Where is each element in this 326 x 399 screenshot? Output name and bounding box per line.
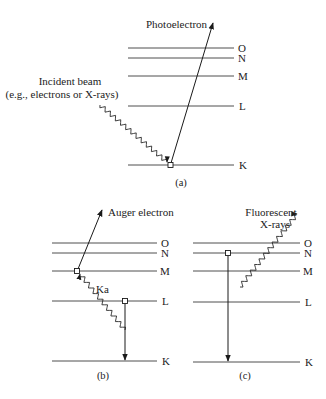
electron-vacancy-k — [168, 163, 173, 168]
fluorescent-label: Fluorescent — [245, 206, 296, 218]
auger-electron-arrow — [78, 210, 102, 269]
level-label-l: L — [239, 100, 246, 112]
level-label-m: M — [303, 265, 313, 277]
incident-beam-wave — [100, 105, 167, 162]
level-label-k: K — [162, 355, 170, 367]
atomic-energy-level-diagram: O N M L K Photoelectron Incident beam (e… — [0, 0, 326, 399]
level-label-m: M — [238, 70, 248, 82]
panel-a: O N M L K Photoelectron Incident beam (e… — [5, 18, 248, 189]
panel-b: O N M L K Auger electron Ka (b) — [52, 206, 174, 382]
xrays-label: X-rays — [260, 218, 290, 230]
incident-beam-sublabel: (e.g., electrons or X-rays) — [5, 88, 118, 101]
electron-m — [75, 269, 80, 274]
level-label-m: M — [160, 265, 170, 277]
electron-l — [123, 299, 128, 304]
level-label-n: N — [161, 247, 169, 259]
level-label-k: K — [305, 356, 313, 368]
level-label-l: L — [162, 295, 169, 307]
panel-c: O N M L K Fluorescent X-rays (c) — [193, 206, 313, 382]
incident-beam-label: Incident beam — [39, 75, 102, 87]
level-label-n: N — [238, 52, 246, 64]
panel-a-caption: (a) — [175, 177, 187, 189]
level-label-n: N — [304, 247, 312, 259]
ka-label: Ka — [96, 283, 109, 295]
photoelectron-label: Photoelectron — [146, 18, 208, 30]
panel-c-caption: (c) — [239, 370, 251, 382]
level-label-l: L — [305, 296, 312, 308]
panel-b-caption: (b) — [97, 370, 110, 382]
electron-n — [226, 251, 231, 256]
photoelectron-arrow — [171, 23, 213, 163]
level-label-k: K — [239, 159, 247, 171]
auger-electron-label: Auger electron — [108, 206, 174, 218]
